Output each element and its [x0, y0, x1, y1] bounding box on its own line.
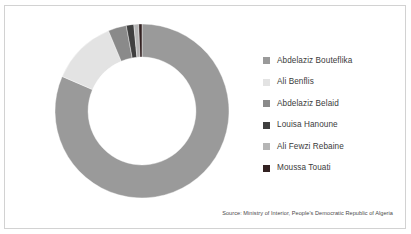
chart-legend: Abdelaziz BouteflikaAli BenflisAbdelaziz… — [263, 50, 408, 179]
legend-color-swatch — [263, 100, 270, 107]
legend-item[interactable]: Louisa Hanoune — [263, 115, 408, 137]
legend-item[interactable]: Moussa Touati — [263, 158, 408, 180]
legend-item-label: Moussa Touati — [277, 164, 331, 172]
legend-item-label: Ali Fewzi Rebaine — [277, 143, 344, 151]
legend-item[interactable]: Ali Benflis — [263, 72, 408, 94]
legend-color-swatch — [263, 165, 270, 172]
legend-item-label: Louisa Hanoune — [277, 121, 338, 129]
source-note: Source: Ministry of Interior, People's D… — [222, 210, 393, 216]
donut-chart-plot-area — [5, 6, 257, 206]
legend-color-swatch — [263, 143, 270, 150]
donut-chart-svg — [53, 22, 231, 200]
legend-item[interactable]: Abdelaziz Belaid — [263, 93, 408, 115]
legend-item[interactable]: Ali Fewzi Rebaine — [263, 136, 408, 158]
legend-item[interactable]: Abdelaziz Bouteflika — [263, 50, 408, 72]
chart-figure: Abdelaziz BouteflikaAli BenflisAbdelaziz… — [0, 0, 411, 234]
donut-chart — [53, 22, 231, 200]
legend-item-label: Abdelaziz Bouteflika — [277, 57, 352, 65]
legend-item-label: Ali Benflis — [277, 78, 314, 86]
legend-color-swatch — [263, 57, 270, 64]
legend-item-label: Abdelaziz Belaid — [277, 100, 339, 108]
donut-slice-group — [55, 24, 229, 198]
legend-color-swatch — [263, 79, 270, 86]
legend-color-swatch — [263, 122, 270, 129]
figure-border: Abdelaziz BouteflikaAli BenflisAbdelaziz… — [4, 5, 406, 229]
